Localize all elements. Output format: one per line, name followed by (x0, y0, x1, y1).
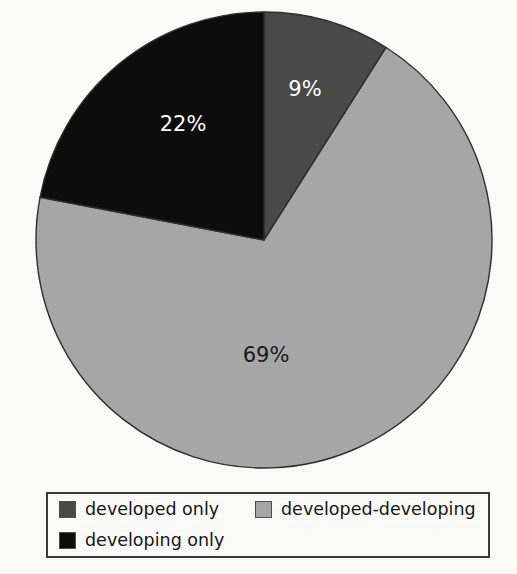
legend-label-developed-developing: developed-developing (281, 501, 476, 519)
legend-item-developing-only[interactable]: developing only (59, 532, 255, 550)
pie-slice-label-developed-only: 9% (288, 77, 321, 101)
legend-item-developed-developing[interactable]: developed-developing (255, 501, 476, 519)
chart-legend: developed only developed-developing deve… (46, 492, 490, 558)
pie-chart-area: 9%69%22% (0, 0, 517, 480)
pie-slices-group (36, 12, 492, 468)
legend-label-developed-only: developed only (85, 501, 219, 519)
legend-item-developed-only[interactable]: developed only (59, 501, 255, 519)
pie-chart-svg: 9%69%22% (0, 0, 517, 480)
pie-slice-label-developed-developing: 69% (243, 343, 290, 367)
legend-swatch-developed-only (59, 501, 76, 518)
legend-row: developing only (48, 525, 488, 556)
pie-chart-page: 9%69%22% developed only developed-develo… (0, 0, 517, 574)
legend-swatch-developing-only (59, 532, 76, 549)
pie-slice-label-developing-only: 22% (160, 112, 207, 136)
legend-label-developing-only: developing only (85, 532, 224, 550)
legend-swatch-developed-developing (255, 501, 272, 518)
legend-row: developed only developed-developing (48, 494, 488, 525)
